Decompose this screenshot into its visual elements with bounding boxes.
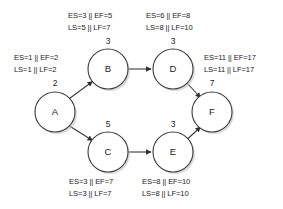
node-b-label: B — [105, 63, 111, 74]
node-e-duration: 3 — [171, 119, 176, 129]
node-d[interactable]: D 3 — [153, 36, 195, 91]
annotation-node-b-late: LS=5 || LF=7 — [68, 22, 112, 34]
node-d-label: D — [170, 63, 177, 74]
annotation-node-d-early: ES=6 || EF=8 — [146, 10, 193, 22]
node-a-duration: 2 — [53, 78, 58, 88]
node-e-label: E — [170, 146, 176, 157]
edge-a-to-b — [70, 82, 93, 99]
node-f[interactable]: F 7 — [192, 78, 234, 134]
node-c-label: C — [105, 146, 112, 157]
annotation-node-a-late: LS=1 || LF=2 — [14, 64, 58, 76]
annotation-node-e-early: ES=8 || EF=10 — [142, 176, 190, 188]
node-d-duration: 3 — [171, 36, 176, 46]
annotation-node-c-late: LS=3 || LF=7 — [69, 188, 113, 200]
edge-a-to-c — [70, 126, 93, 141]
edge-e-to-f — [188, 127, 201, 139]
annotation-node-b: ES=3 || EF=5 LS=5 || LF=7 — [68, 10, 112, 33]
node-f-duration: 7 — [210, 78, 215, 88]
annotation-node-d: ES=6 || EF=8 LS=8 || LF=10 — [146, 10, 193, 33]
annotation-node-f-early: ES=11 || EF=17 — [204, 52, 256, 64]
node-a[interactable]: A 2 — [35, 78, 77, 134]
node-b-duration: 3 — [106, 36, 111, 46]
node-f-label: F — [209, 106, 215, 117]
annotation-node-e-late: LS=8 || LF=10 — [142, 188, 190, 200]
annotation-node-e: ES=8 || EF=10 LS=8 || LF=10 — [142, 176, 190, 199]
node-c[interactable]: C 5 — [88, 119, 130, 174]
node-b[interactable]: B 3 — [88, 36, 130, 91]
annotation-node-d-late: LS=8 || LF=10 — [146, 22, 193, 34]
annotation-node-a: ES=1 || EF=2 LS=1 || LF=2 — [14, 52, 58, 75]
annotation-node-f-late: LS=11 || LF=17 — [204, 64, 256, 76]
annotation-node-c-early: ES=3 || EF=7 — [69, 176, 113, 188]
node-a-label: A — [52, 106, 59, 117]
annotation-node-a-early: ES=1 || EF=2 — [14, 52, 58, 64]
node-c-duration: 5 — [106, 119, 111, 129]
node-e[interactable]: E 3 — [153, 119, 195, 174]
annotation-node-f: ES=11 || EF=17 LS=11 || LF=17 — [204, 52, 256, 75]
annotation-node-b-early: ES=3 || EF=5 — [68, 10, 112, 22]
annotation-node-c: ES=3 || EF=7 LS=3 || LF=7 — [69, 176, 113, 199]
network-diagram: A 2 B 3 C 5 D 3 E 3 — [0, 0, 283, 209]
